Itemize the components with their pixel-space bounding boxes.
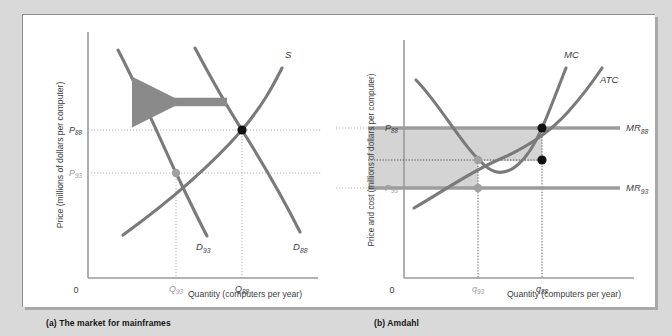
panel-a-demand-1988-curve — [195, 48, 300, 232]
panel-b-atc-at-q88-point — [537, 155, 546, 164]
panel-b-atc-at-q93-point — [474, 156, 482, 164]
panel-a-ylabel: Price (millions of dollars per computer) — [55, 82, 65, 229]
panel-b-ylabel: Price and cost (millions of dollars per … — [367, 73, 376, 246]
caption-panel-a: (a) The market for mainframes — [46, 318, 171, 328]
panel-b-mc-label: MC — [564, 49, 579, 60]
panel-a-supply-label: S — [285, 49, 292, 60]
panel-a-ytick-p93-sub: 93 — [75, 172, 83, 179]
figure-root: Price (millions of dollars per computer)… — [0, 0, 672, 336]
panel-a-ytick-p88-sub: 88 — [75, 129, 83, 136]
panel-b-mr88-label-sub: 88 — [641, 128, 649, 135]
panel-a-demand-1993-label: D93 — [196, 241, 211, 254]
panel-a-demand-1988-label: D88 — [293, 241, 308, 254]
panel-a-xtick-q93-base: Q — [169, 284, 176, 294]
panel-a-ytick-p93: P93 — [69, 168, 83, 179]
panel-b-origin-label: 0 — [389, 285, 394, 295]
panel-b-mr88-label-base: MR — [626, 122, 641, 133]
panel-a-xtick-q88: Q88 — [235, 284, 250, 295]
panel-a-supply-curve — [123, 68, 282, 235]
panel-b-profit-max-1988-point — [537, 123, 546, 132]
panel-b-atc-label: ATC — [599, 74, 618, 85]
panel-b-ytick-p88-sub: 88 — [391, 127, 399, 134]
caption-panel-b: (b) Amdahl — [374, 318, 419, 328]
panel-a-demand-1988-label-sub: 88 — [300, 247, 308, 254]
panel-a-xtick-q88-base: Q — [235, 284, 242, 294]
panel-b-xtick-q88-sub: 88 — [541, 288, 549, 295]
panel-b-mr93-label-sub: 93 — [641, 188, 649, 195]
panel-b-mr88-label: MR88 — [626, 122, 649, 135]
panel-a-equilibrium-1988-point — [237, 125, 246, 134]
panel-a-ytick-p88: P88 — [69, 125, 83, 136]
panel-b-xtick-q88: q88 — [536, 284, 549, 295]
panel-b-ytick-p88: P88 — [385, 123, 399, 134]
panel-a-chart: Price (millions of dollars per computer)… — [0, 0, 336, 310]
panel-b-ytick-p93-sub: 93 — [391, 187, 399, 194]
panel-b-xlabel: Quantity (computers per year) — [507, 289, 621, 299]
panel-a-demand-1993-label-sub: 93 — [203, 247, 211, 254]
panel-a-demand-1993-curve — [118, 50, 207, 236]
panel-a-equilibrium-1993-point — [172, 169, 180, 177]
panel-b-mr93-label-base: MR — [626, 182, 641, 193]
panel-b-mr93-label: MR93 — [626, 182, 649, 195]
panel-a-origin-label: 0 — [73, 285, 78, 295]
panel-b-xtick-q93-sub: 93 — [477, 288, 485, 295]
panel-a-xtick-q93-sub: 93 — [176, 288, 184, 295]
panel-b-chart: Price and cost (millions of dollars per … — [336, 0, 672, 310]
panel-b-loss-min-1993-point — [474, 184, 482, 192]
panel-b-xtick-q93: q93 — [472, 284, 485, 295]
panel-a-xtick-q93: Q93 — [169, 284, 184, 295]
panel-a-xtick-q88-sub: 88 — [242, 288, 250, 295]
